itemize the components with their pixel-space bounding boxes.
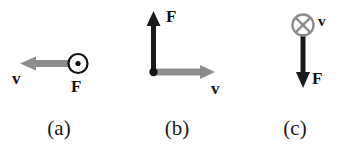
caption-c: (c) xyxy=(236,118,354,139)
velocity-label-a: v xyxy=(12,70,21,87)
velocity-arrow-right-icon xyxy=(153,65,215,79)
velocity-into-page-circle-cross-icon xyxy=(293,15,314,36)
force-label-c: F xyxy=(312,70,322,87)
velocity-arrow-left-icon xyxy=(20,57,68,71)
velocity-label-c: v xyxy=(318,14,326,29)
force-arrow-down-icon xyxy=(296,34,310,88)
caption-b: (b) xyxy=(118,118,236,139)
panel-a: v F (a) xyxy=(0,0,118,145)
panel-b: F v (b) xyxy=(118,0,236,145)
force-label-b: F xyxy=(166,8,176,25)
physics-vector-figure: v F (a) F v (b) xyxy=(0,0,354,145)
force-label-a: F xyxy=(71,78,81,95)
panel-c: v F (c) xyxy=(236,0,354,145)
origin-dot-marker xyxy=(149,68,157,76)
velocity-label-b: v xyxy=(211,80,220,97)
force-arrow-up-icon xyxy=(147,11,161,73)
caption-a: (a) xyxy=(0,118,118,139)
force-out-of-page-circle-dot-icon xyxy=(69,54,88,73)
